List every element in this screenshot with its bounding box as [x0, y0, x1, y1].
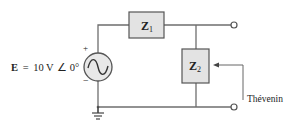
minus-sign: − [83, 75, 89, 86]
terminal-top [231, 22, 237, 28]
thevenin-label: Thévenin [247, 94, 283, 104]
impedance-z2: Z2 [182, 49, 209, 83]
source-label: E = 10 V ∠ 0° [11, 62, 79, 73]
terminal-bottom [231, 104, 237, 110]
ground-icon [92, 107, 104, 119]
plus-sign: + [83, 43, 88, 53]
impedance-z1: Z1 [129, 12, 164, 38]
thevenin-arrow-icon [213, 63, 243, 101]
circuit-diagram: Z1 Z2 + − E = 10 V ∠ 0° Thévenin [0, 0, 296, 132]
